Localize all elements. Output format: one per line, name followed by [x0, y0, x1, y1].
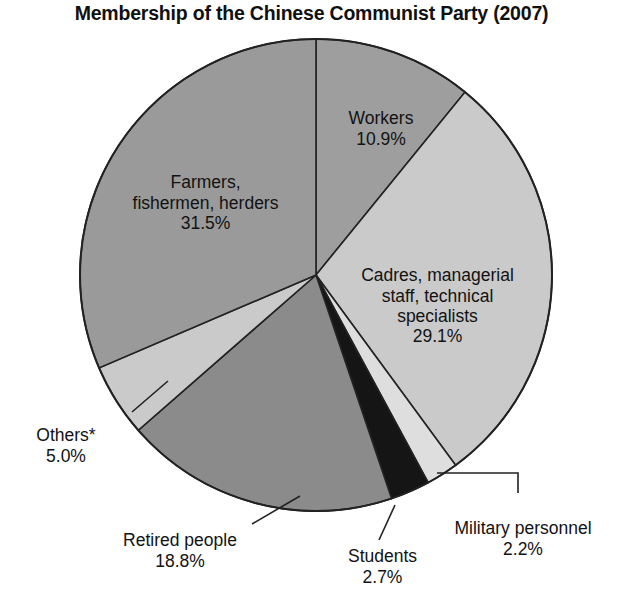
leader-line-military [437, 473, 518, 493]
pie-chart-figure [0, 0, 623, 608]
leader-line-students [379, 505, 395, 540]
